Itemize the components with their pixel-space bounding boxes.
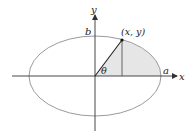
point-marker (120, 38, 123, 41)
a-label: a (163, 65, 169, 76)
y-axis-label: y (90, 4, 97, 15)
point-label: (x, y) (121, 26, 145, 37)
diagram-canvas: y x b a (x, y) θ (0, 0, 193, 138)
x-axis-label: x (179, 71, 185, 82)
theta-label: θ (101, 65, 107, 76)
ellipse-diagram: y x b a (x, y) θ (0, 0, 193, 138)
b-label: b (85, 26, 91, 37)
